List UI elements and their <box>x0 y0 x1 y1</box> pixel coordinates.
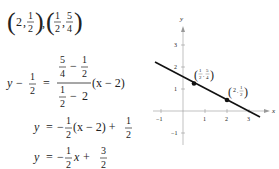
step2-factor: (x − 2) + <box>73 120 116 134</box>
step3-var: x + <box>73 150 90 164</box>
y-axis-arrow-icon <box>181 26 185 32</box>
slope-top-a-num: 5 <box>60 54 65 65</box>
step3-neg: − <box>57 150 64 164</box>
step3-coef-den: 2 <box>66 159 71 169</box>
slope-top-a-den: 4 <box>60 68 65 79</box>
svg-text:,: , <box>23 15 26 29</box>
step1-minus: − <box>16 76 23 90</box>
line-graph: y x −1 1 2 3 3 2 1 −1 ( 1 2 , 5 4 ) ( 2 … <box>150 0 279 169</box>
step3-equals: = <box>46 150 53 164</box>
slope-bot-a-den: 2 <box>60 98 65 109</box>
step-2-equation: y = − 1 2 (x − 2) + 1 2 <box>33 115 132 140</box>
point2-x-den: 2 <box>55 23 60 34</box>
step-3-equation: y = − 1 2 x + 3 2 <box>33 145 107 169</box>
x-tick-2: 2 <box>225 116 228 122</box>
point-b-y-den: 2 <box>240 92 243 97</box>
y-tick-2: 2 <box>174 64 177 70</box>
step-1-equation: y − 1 2 = 5 4 − 1 2 1 2 − 2 (x − 2) <box>6 54 125 109</box>
y-tick-labels: 3 2 1 −1 <box>171 42 177 136</box>
step2-coef-den: 2 <box>66 129 71 140</box>
slope-bot-b: 2 <box>82 89 88 103</box>
y-axis-label: y <box>179 15 184 23</box>
x-tick-neg1: −1 <box>156 116 162 122</box>
step2-neg: − <box>57 120 64 134</box>
y-tick-neg1: −1 <box>171 130 177 136</box>
slope-bot-a-num: 1 <box>60 84 65 95</box>
step2-equals: = <box>46 120 53 134</box>
point-b-label: ( 2 , 1 2 ) <box>228 85 248 99</box>
step3-coef-num: 1 <box>66 145 71 156</box>
point2-y-num: 5 <box>67 10 72 21</box>
point-a-y-den: 4 <box>206 75 209 80</box>
svg-text:,: , <box>62 15 65 29</box>
point1-y-num: 1 <box>28 10 33 21</box>
point-b-y-num: 1 <box>240 85 243 90</box>
x-tick-1: 1 <box>203 116 206 122</box>
y-tick-1: 1 <box>174 86 177 92</box>
point1-x: 2 <box>16 15 22 29</box>
svg-text:,: , <box>203 72 204 78</box>
step1-equals: = <box>43 76 50 90</box>
svg-text:(: ( <box>46 7 55 36</box>
axes <box>153 30 267 145</box>
svg-text:(: ( <box>194 68 198 82</box>
point-a-x-den: 2 <box>199 75 202 80</box>
step3-const-num: 3 <box>101 145 106 156</box>
step1-lhs-num: 1 <box>30 71 35 82</box>
step3-const-den: 2 <box>101 159 106 169</box>
step2-const-den: 2 <box>126 129 131 140</box>
svg-text:−: − <box>70 59 77 73</box>
point-a-x-num: 1 <box>199 68 202 73</box>
given-points: ( 2 , 1 2 ) , ( 1 2 , 5 4 ) <box>7 7 83 36</box>
svg-text:−: − <box>70 89 77 103</box>
x-tick-labels: −1 1 2 3 <box>156 116 250 122</box>
point-a-label: ( 1 2 , 5 4 ) <box>194 68 214 82</box>
point1-y-den: 2 <box>28 23 33 34</box>
x-axis-arrow-icon <box>264 109 270 113</box>
svg-text:): ) <box>244 85 248 99</box>
svg-text:(: ( <box>7 7 16 36</box>
step2-lhs: y <box>33 120 40 134</box>
point2-x-num: 1 <box>55 10 60 21</box>
svg-text:): ) <box>74 7 83 36</box>
point-b-x: 2 <box>233 87 236 93</box>
svg-text:,: , <box>237 88 238 94</box>
svg-text:): ) <box>210 68 214 82</box>
step3-lhs: y <box>33 150 40 164</box>
step2-const-num: 1 <box>126 115 131 126</box>
point-a-y-num: 5 <box>206 68 209 73</box>
x-tick-3: 3 <box>247 116 250 122</box>
step1-lhs-den: 2 <box>30 85 35 96</box>
x-axis-label: x <box>271 107 276 115</box>
step2-coef-num: 1 <box>66 115 71 126</box>
slope-top-b-den: 2 <box>82 68 87 79</box>
svg-text:,: , <box>42 16 45 30</box>
y-tick-3: 3 <box>174 42 177 48</box>
step1-factor: (x − 2) <box>92 76 125 90</box>
svg-text:(: ( <box>228 85 232 99</box>
step1-lhs-y: y <box>6 76 13 90</box>
slope-top-b-num: 1 <box>82 54 87 65</box>
point2-y-den: 4 <box>67 23 72 34</box>
solution-steps: ( 2 , 1 2 ) , ( 1 2 , 5 4 ) y − 1 2 = 5 … <box>0 0 160 169</box>
